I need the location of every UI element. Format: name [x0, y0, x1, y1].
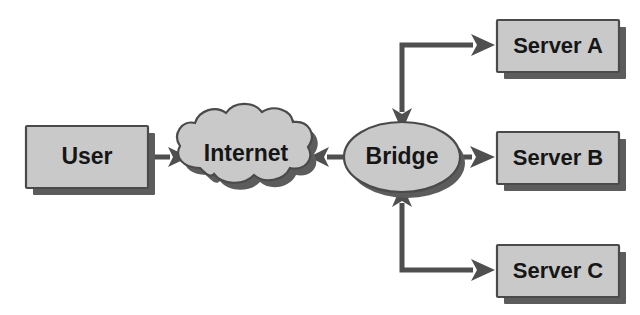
node-server-a[interactable]: Server A [497, 20, 626, 79]
node-user-label: User [61, 143, 112, 169]
diagram-canvas: User Internet Bridge Server A Server B [0, 0, 640, 315]
node-server-c-label: Server C [513, 258, 604, 283]
node-bridge-label: Bridge [366, 143, 439, 169]
connector-bridge-to-server-c [392, 184, 495, 281]
node-user[interactable]: User [26, 126, 155, 195]
node-internet[interactable]: Internet [177, 104, 318, 190]
connector-bridge-to-server-a [392, 34, 495, 131]
network-diagram: User Internet Bridge Server A Server B [0, 0, 640, 315]
node-server-a-label: Server A [513, 33, 603, 58]
node-server-b-label: Server B [513, 145, 604, 170]
node-bridge[interactable]: Bridge [344, 122, 465, 198]
node-server-b[interactable]: Server B [497, 132, 626, 191]
node-internet-label: Internet [204, 140, 289, 166]
node-server-c[interactable]: Server C [497, 245, 626, 304]
